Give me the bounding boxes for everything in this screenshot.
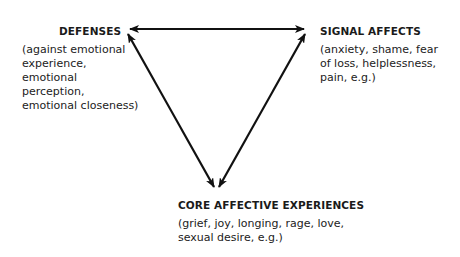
node-signal-affects: SIGNAL AFFECTS (anxiety, shame, fear of …	[320, 25, 452, 85]
arrow-signal-core	[219, 34, 305, 187]
node-description: (grief, joy, longing, rage, love, sexual…	[178, 217, 378, 245]
node-title: SIGNAL AFFECTS	[320, 25, 452, 37]
node-description: (anxiety, shame, fear of loss, helplessn…	[320, 43, 452, 85]
node-title: CORE AFFECTIVE EXPERIENCES	[178, 199, 378, 211]
node-description: (against emotional experience, emotional…	[22, 43, 140, 113]
node-title: DEFENSES	[59, 25, 140, 37]
arrow-defenses-core	[128, 34, 214, 187]
node-defenses: DEFENSES (against emotional experience, …	[22, 25, 140, 113]
node-core-affective-experiences: CORE AFFECTIVE EXPERIENCES (grief, joy, …	[178, 199, 378, 245]
